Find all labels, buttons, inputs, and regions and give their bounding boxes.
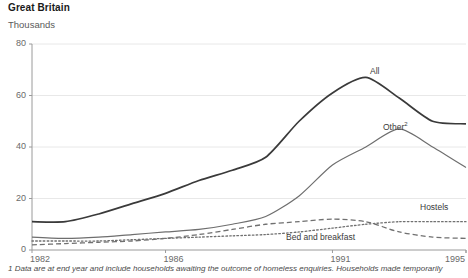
y-tick-label: 80 <box>4 38 26 48</box>
x-tick-label: 1986 <box>164 254 184 264</box>
series-label-other-footnote-marker: 2 <box>404 121 407 127</box>
x-tick-label: 1982 <box>30 254 50 264</box>
y-tick-label: 40 <box>4 141 26 151</box>
series-label-all: All <box>370 66 379 76</box>
series-paths <box>32 77 466 244</box>
footnote: 1 Data are at end year and include house… <box>8 264 442 273</box>
x-tick-label: 1995 <box>445 254 465 264</box>
series-line-hostels <box>32 222 466 242</box>
y-tick-label: 60 <box>4 90 26 100</box>
x-tick-label: 1991 <box>330 254 350 264</box>
series-label-other-text: Other <box>383 122 404 132</box>
series-label-hostels: Hostels <box>420 202 448 212</box>
series-line-all <box>32 77 466 222</box>
homelessness-line-chart: Great Britain Thousands 020406080 198219… <box>0 0 468 278</box>
series-label-bed-and-breakfast: Bed and breakfast <box>286 232 355 242</box>
plot-area <box>0 0 468 278</box>
y-tick-label: 0 <box>4 244 26 254</box>
series-label-other: Other2 <box>383 122 408 132</box>
y-tick-label: 20 <box>4 193 26 203</box>
